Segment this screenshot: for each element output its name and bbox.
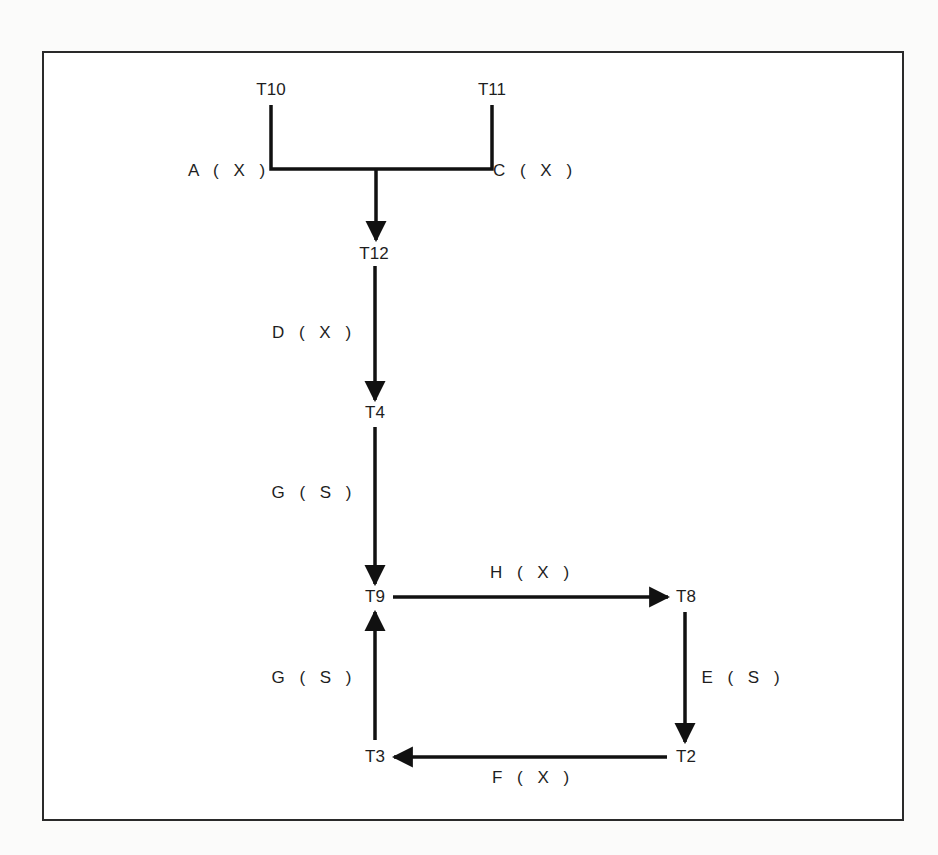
- edge-label-a: A ( X ): [188, 161, 270, 181]
- node-t2: T2: [676, 747, 696, 767]
- flow-diagram-edges: [0, 0, 938, 855]
- node-t10: T10: [256, 80, 285, 100]
- node-t12: T12: [359, 244, 388, 264]
- node-t8: T8: [676, 587, 696, 607]
- edge-label-c: C ( X ): [493, 161, 577, 181]
- node-t4: T4: [365, 403, 385, 423]
- node-t9: T9: [365, 587, 385, 607]
- edge-label-e: E ( S ): [701, 668, 784, 688]
- edge-label-d: D ( X ): [272, 323, 356, 343]
- edge-a-t10: [271, 105, 376, 169]
- node-t3: T3: [365, 747, 385, 767]
- node-t11: T11: [478, 80, 506, 100]
- edge-label-g-upper: G ( S ): [271, 483, 356, 503]
- edge-label-h: H ( X ): [490, 563, 574, 583]
- edge-label-g-lower: G ( S ): [271, 668, 356, 688]
- edge-c-t11: [376, 105, 492, 169]
- edge-label-f: F ( X ): [492, 768, 574, 788]
